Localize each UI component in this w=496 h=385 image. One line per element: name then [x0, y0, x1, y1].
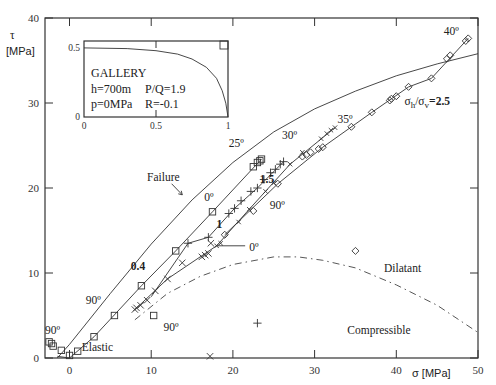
annotation-label: Elastic: [82, 341, 113, 353]
annotation-label: 90º: [86, 294, 102, 306]
cross-marker: [137, 302, 143, 308]
cross-marker: [208, 240, 214, 246]
annotation-label: 0º: [204, 191, 214, 203]
inset-corner-marker: [220, 41, 228, 49]
inset-pressure: p=0MPa: [91, 97, 133, 111]
annotation-label: 1.5: [260, 173, 275, 185]
x-tick-label: 0: [67, 364, 73, 376]
square-marker: [150, 312, 156, 318]
annotation-label: 0º: [249, 241, 259, 253]
trend-line: [225, 38, 469, 234]
cross-marker: [152, 288, 158, 294]
inset-x-tick-label: 0: [82, 121, 87, 131]
x-tick-label: 10: [146, 364, 158, 376]
x-axis-title: σ [MPa]: [412, 367, 451, 379]
chart-svg: 01020304050010203040 90º90º90º90º0º0º25º…: [0, 0, 496, 385]
annotation-label: Compressible: [347, 324, 410, 337]
inset-chart: 00.5100.5GALLERYh=700mP/Q=1.9p=0MPaR=-0.…: [68, 41, 231, 131]
y-tick-label: 20: [28, 182, 40, 194]
failure-arrow: [172, 184, 183, 195]
inset-depth: h=700m: [91, 82, 132, 96]
y-tick-label: 40: [28, 12, 40, 24]
dilatancy-boundary-curve: [135, 257, 478, 333]
y-tick-label: 0: [34, 352, 40, 364]
inset-x-tick-label: 1: [226, 121, 231, 131]
annotation-label: 90º: [163, 321, 179, 333]
square-marker: [48, 340, 54, 346]
x-tick-label: 50: [473, 364, 485, 376]
inset-ratio: P/Q=1.9: [145, 82, 185, 96]
cross-marker: [133, 305, 139, 311]
x-marker: [236, 220, 240, 224]
x-marker: [263, 189, 267, 193]
cross-marker: [164, 276, 170, 282]
plus-marker: [237, 197, 245, 205]
annotation-label: 0.4: [131, 260, 146, 272]
inset-title: GALLERY: [91, 66, 147, 80]
x-tick-label: 30: [309, 364, 321, 376]
y-axis-unit: [MPa]: [6, 45, 35, 57]
x-marker: [288, 162, 292, 166]
trend-line: [135, 128, 335, 310]
y-tick-label: 30: [28, 97, 40, 109]
inset-r-value: R=-0.1: [145, 97, 179, 111]
square-marker: [250, 164, 256, 170]
y-axis-symbol: τ: [10, 29, 15, 41]
inset-y-tick-label: 0: [75, 112, 80, 122]
trend-line: [57, 159, 261, 358]
plus-marker: [225, 209, 233, 217]
plus-marker: [253, 319, 261, 327]
square-marker: [46, 339, 52, 345]
annotation-label: 40º: [444, 25, 460, 37]
plus-marker: [247, 187, 255, 195]
x-tick-label: 40: [391, 364, 403, 376]
inset-y-tick-label: 0.5: [68, 43, 80, 53]
annotation-label: 35º: [337, 113, 353, 125]
x-marker: [333, 125, 337, 129]
cross-marker: [179, 260, 185, 266]
annotation-label: 25º: [229, 137, 245, 149]
annotation-label: 1: [217, 218, 223, 230]
annotation-label: 90º: [45, 324, 61, 336]
annotation-label: Dilatant: [384, 262, 422, 274]
square-marker: [50, 343, 56, 349]
inset-x-tick-label: 0.5: [150, 121, 162, 131]
annotation-label: 30º: [282, 129, 298, 141]
y-tick-label: 10: [28, 267, 40, 279]
annotation-label: 90º: [270, 199, 286, 211]
ratio-label: σh/σv=2.5: [404, 95, 450, 110]
x-tick-label: 20: [227, 364, 239, 376]
diamond-marker: [352, 247, 359, 254]
x-marker: [319, 137, 323, 141]
annotation-label: Failure: [147, 171, 180, 183]
